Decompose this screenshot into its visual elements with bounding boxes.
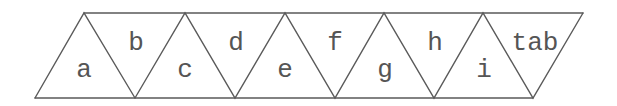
triangle-strip-diagram: a b c d e f g h i tab — [0, 0, 617, 106]
cell-label-h: h — [427, 28, 443, 58]
cell-label-tab: tab — [512, 28, 559, 58]
cell-label-f: f — [327, 28, 343, 58]
cell-label-e: e — [277, 55, 293, 85]
cell-label-b: b — [128, 28, 144, 58]
zigzag-edges — [35, 13, 583, 98]
cell-label-a: a — [76, 55, 92, 85]
cell-label-d: d — [228, 28, 244, 58]
cell-label-i: i — [476, 55, 492, 85]
cell-label-g: g — [377, 55, 393, 85]
cell-label-c: c — [177, 55, 193, 85]
